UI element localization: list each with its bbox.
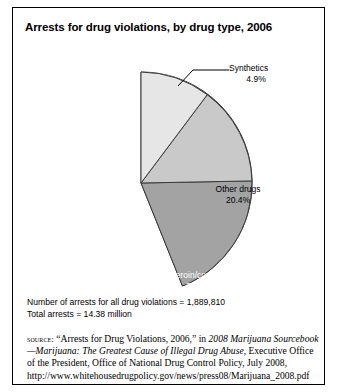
pie-label-synthetics-pct: 4.9% [229, 74, 283, 85]
pie-label-synthetics-name: Synthetics [229, 63, 268, 73]
chart-footnotes: Number of arrests for all drug violation… [27, 297, 317, 320]
pie-label-other-drugs: Other drugs 20.4% [199, 184, 277, 205]
source-note: source: “Arrests for Drug Violations, 20… [27, 333, 319, 385]
source-text-part1: “Arrests for Drug Violations, 2006,” in [56, 333, 208, 344]
footnote-total-arrests: Total arrests = 14.38 million [27, 309, 317, 321]
pie-chart: Marijuana 43.9% Heroin/cocaine 30.8% Oth… [13, 46, 324, 298]
footnote-total-drug-arrests: Number of arrests for all drug violation… [27, 297, 317, 309]
pie-label-heroin-cocaine-name: Heroin/cocaine [170, 270, 227, 280]
pie-label-marijuana-name: Marijuana [97, 174, 134, 184]
pie-label-marijuana-pct: 43.9% [74, 185, 158, 196]
page-title: Arrests for drug violations, by drug typ… [25, 20, 315, 34]
pie-label-other-drugs-pct: 20.4% [199, 195, 277, 206]
pie-label-marijuana: Marijuana 43.9% [74, 174, 158, 195]
pie-label-synthetics: Synthetics 4.9% [229, 63, 305, 84]
pie-label-heroin-cocaine: Heroin/cocaine 30.8% [146, 270, 250, 291]
source-label: source: [27, 334, 54, 344]
pie-label-heroin-cocaine-pct: 30.8% [146, 281, 250, 292]
figure-frame: Arrests for drug violations, by drug typ… [12, 7, 325, 385]
pie-label-other-drugs-name: Other drugs [216, 184, 261, 194]
